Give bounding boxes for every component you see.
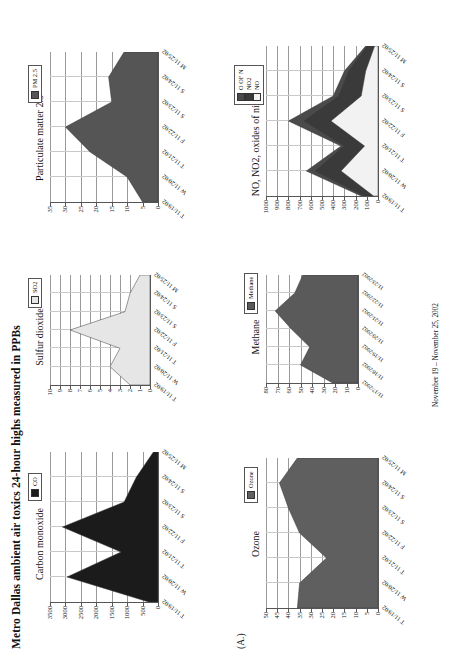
y-axis-tick [311,609,312,612]
y-axis-tick-label: 400 [330,200,337,210]
y-axis-tick [277,197,278,200]
legend-item[interactable]: CO [31,477,39,497]
area-series-group [266,458,378,608]
y-axis-tick [81,203,82,206]
y-axis-tick [335,384,336,387]
x-axis-tick-label: S 11/24/02 [161,73,186,94]
y-axis-tick-label: 35 [47,206,54,213]
y-axis-tick-label: 2500 [78,606,85,619]
y-axis-tick [81,603,82,606]
y-axis-tick-label: 800 [285,200,292,210]
y-axis-tick [143,203,144,206]
y-axis-tick-label: 10 [352,612,359,619]
y-axis-tick-label: 10 [343,387,350,394]
chart-legend[interactable]: Ozone [244,467,258,503]
y-axis-tick-label: 0 [355,387,362,390]
y-axis-tick [289,384,290,387]
y-axis-tick [288,609,289,612]
y-axis-tick [367,609,368,612]
y-axis-tick-label: 15 [341,612,348,619]
y-axis-tick [378,197,379,200]
y-axis-tick [150,386,151,389]
plot-canvas [50,275,151,386]
y-axis-tick [112,203,113,206]
page-canvas: Metro Dallas ambient air toxics 24-hour … [0,0,451,665]
x-axis-tick-label: S 11/23/02 [161,98,186,119]
y-axis-tick [60,386,61,389]
x-axis-tick-label: T 11/19/02 [381,604,406,626]
y-axis-tick-label: 9 [57,389,64,392]
x-axis-tick-label: M 11/25/02 [161,448,188,471]
y-axis-tick-label: 600 [308,200,315,210]
plot-canvas [50,452,159,603]
y-axis-tick-label: 200 [352,200,359,210]
y-axis-tick-label: 25 [319,612,326,619]
legend-item[interactable]: Ozone [247,471,255,499]
x-axis-tick-label: 11/17/2002 [361,379,385,399]
x-axis-tick-label: T 11/19/02 [161,598,186,620]
chart-legend[interactable]: CO [28,473,42,501]
y-axis-tick [127,203,128,206]
y-axis-tick [143,603,144,606]
chart-legend[interactable]: PM 2.5 [28,65,42,103]
area-series-group [266,275,358,383]
legend-item[interactable]: NO [253,69,261,101]
plot-area: 012345678910T 11/19/02W 11/20/02T 11/21/… [50,276,150,386]
y-axis-tick-label: 2000 [93,606,100,619]
y-axis-tick-label: 5 [139,206,146,209]
y-axis-tick-label: 5 [97,389,104,392]
plot-canvas [266,46,379,197]
legend-label: PM 2.5 [31,69,39,88]
y-axis-tick [324,384,325,387]
y-axis-tick [322,609,323,612]
y-axis-tick [130,386,131,389]
chart-carbon-monoxide: Carbon monoxide0500100015002000250030003… [34,449,209,639]
y-axis-tick [333,197,334,200]
chart-legend[interactable]: Methane [244,273,258,314]
y-axis-tick-label: 50 [263,612,270,619]
y-axis-tick-label: 45 [274,612,281,619]
y-axis-tick [344,609,345,612]
chart-legend[interactable]: O OF NNO2NO [234,65,264,105]
x-axis-tick-label: M 11/25/02 [161,48,188,71]
x-axis-tick-label: F 11/22/02 [381,117,406,138]
y-axis-tick [50,603,51,606]
legend-swatch-icon [31,296,39,304]
area-series-group [266,46,378,196]
x-axis-tick-label: S 11/24/02 [161,473,186,494]
legend-item[interactable]: Methane [247,277,255,310]
y-axis-tick [312,384,313,387]
y-axis-tick-label: 20 [93,206,100,213]
chart-legend[interactable]: SO2 [28,278,42,308]
legend-swatch-icon [31,91,39,99]
x-axis-tick-label: T 11/21/02 [381,142,406,164]
y-axis-tick-label: 80 [263,387,270,394]
y-axis-tick [65,603,66,606]
y-axis-tick [266,609,267,612]
legend-label: Methane [247,277,255,299]
area-series [279,458,378,608]
y-axis-tick [333,609,334,612]
x-axis-tick-label: W 11/20/02 [161,573,188,596]
y-axis-tick [278,384,279,387]
y-axis-tick-label: 1 [137,389,144,392]
legend-item[interactable]: O OF N [237,69,245,101]
y-axis-tick [100,386,101,389]
x-axis-tick-label: T 11/21/02 [381,554,406,576]
y-axis-tick [50,203,51,206]
x-axis-tick-label: T 11/19/02 [381,192,406,214]
legend-label: NO2 [245,78,253,90]
legend-item[interactable]: SO2 [31,282,39,304]
x-axis-tick-label: F 11/22/02 [161,523,186,544]
x-axis-tick-label: T 11/21/02 [161,148,186,170]
y-axis-tick [288,197,289,200]
area-series [70,275,150,385]
chart-methane: Methane0102030405060708011/17/200211/18/… [250,262,408,412]
y-axis-tick-label: 40 [285,612,292,619]
legend-label: Ozone [247,471,255,488]
x-axis-tick-label: M 11/25/02 [381,454,408,477]
y-axis-tick [300,197,301,200]
legend-item[interactable]: NO2 [245,69,253,101]
x-axis-tick-label: W 11/20/02 [161,173,188,196]
legend-item[interactable]: PM 2.5 [31,69,39,99]
